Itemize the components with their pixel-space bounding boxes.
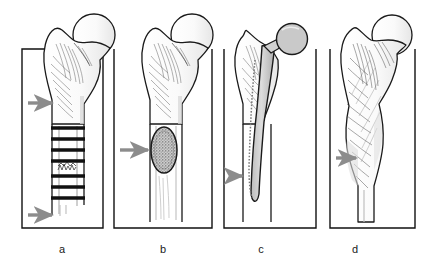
prosthesis-head-c [277, 24, 308, 55]
cortex-shade-a [80, 96, 84, 124]
panel-label-d: d [343, 243, 367, 255]
femur-figure-svg [0, 0, 448, 274]
lesion-outline-b [151, 127, 177, 173]
panel-label-c: c [249, 243, 273, 255]
panel-label-b: b [151, 243, 175, 255]
cortex-shade-b [178, 96, 182, 124]
figure-container: a b c d [0, 0, 448, 274]
panel-label-a: a [50, 243, 74, 255]
oval-lytic-lesion-b [151, 127, 177, 173]
